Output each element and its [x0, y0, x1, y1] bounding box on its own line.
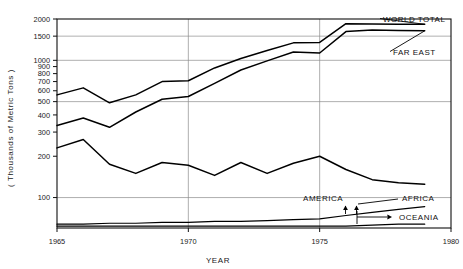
y-tick-label-500: 500 [38, 97, 50, 106]
y-axis-title: ( Thousands of Metric Tons ) [6, 69, 15, 187]
y-tick-label-600: 600 [38, 86, 50, 95]
y-tick-label-2000: 2000 [34, 15, 50, 24]
y-tick-label-300: 300 [38, 128, 50, 137]
y-tick-label-700: 700 [38, 77, 50, 86]
series-label-far-east: FAR EAST [393, 48, 436, 57]
series-label-africa: AFRICA [402, 194, 435, 203]
chart-background [0, 0, 463, 269]
series-label-america: AMERICA [303, 194, 343, 203]
series-label-world-total: WORLD TOTAL [383, 15, 445, 24]
x-tick-label-1965: 1965 [49, 237, 65, 246]
series-label-oceania: OCEANIA [399, 213, 439, 222]
y-tick-label-400: 400 [38, 111, 50, 120]
y-tick-label-1500: 1500 [34, 32, 50, 41]
line-chart: 200015001000900800700600500400300200100 … [0, 0, 463, 269]
y-tick-label-100: 100 [38, 193, 50, 202]
x-tick-label-1970: 1970 [180, 237, 196, 246]
x-tick-label-1980: 1980 [443, 237, 459, 246]
y-tick-label-200: 200 [38, 152, 50, 161]
x-tick-label-1975: 1975 [311, 237, 327, 246]
chart-container: 200015001000900800700600500400300200100 … [0, 0, 463, 269]
x-axis-title: YEAR [206, 256, 230, 265]
